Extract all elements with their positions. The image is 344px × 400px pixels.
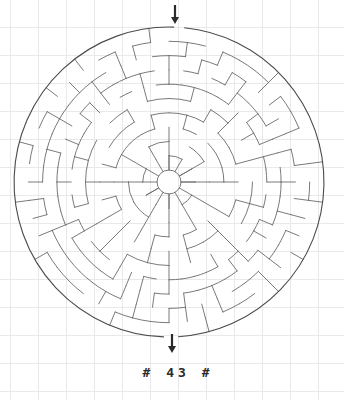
page-canvas: # 43 # [0, 0, 344, 400]
circular-maze-figure [0, 0, 344, 400]
maze-wall-group [15, 28, 322, 331]
top-entrance-arrow-icon [171, 5, 179, 24]
maze-center-hub [157, 170, 181, 194]
bottom-exit-arrow-icon [168, 334, 176, 353]
